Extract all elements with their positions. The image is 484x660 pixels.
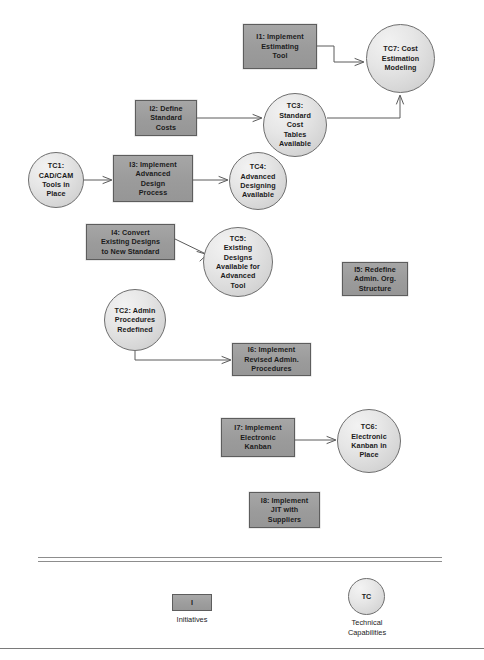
node-i2[interactable]: I2: Define Standard Costs bbox=[135, 100, 197, 136]
node-i4-label: I4: Convert Existing Designs to New Stan… bbox=[99, 228, 162, 256]
node-i2-label: I2: Define Standard Costs bbox=[147, 104, 184, 132]
legend-initiative-symbol: I bbox=[191, 598, 193, 607]
node-tc5-label: TC5: Existing Designs Available for Adva… bbox=[214, 234, 262, 290]
connector-tc2-i6 bbox=[135, 351, 230, 360]
node-i8[interactable]: I8: Implement JIT with Suppliers bbox=[249, 492, 320, 528]
node-i5-label: I5: Redefine Admin. Org. Structure bbox=[352, 265, 398, 293]
node-i5[interactable]: I5: Redefine Admin. Org. Structure bbox=[342, 262, 408, 296]
node-tc7[interactable]: TC7: Cost Estimation Modeling bbox=[366, 24, 435, 93]
connector-i4-tc5 bbox=[175, 239, 206, 254]
node-tc5[interactable]: TC5: Existing Designs Available for Adva… bbox=[203, 227, 273, 297]
node-i8-label: I8: Implement JIT with Suppliers bbox=[259, 496, 310, 524]
node-i3[interactable]: I3: Implement Advanced Design Process bbox=[113, 155, 193, 202]
connector-tc3-tc7 bbox=[327, 96, 400, 118]
node-tc6-label: TC6: Electronic Kanban in Place bbox=[349, 422, 388, 460]
diagram-canvas: I1: Implement Estimating Tool TC7: Cost … bbox=[0, 0, 484, 660]
node-i7[interactable]: I7: Implement Electronic Kanban bbox=[221, 418, 295, 457]
node-tc3[interactable]: TC3: Standard Cost Tables Available bbox=[263, 93, 327, 157]
node-i4[interactable]: I4: Convert Existing Designs to New Stan… bbox=[86, 224, 175, 260]
node-i1[interactable]: I1: Implement Estimating Tool bbox=[243, 24, 317, 69]
legend-divider-bottom bbox=[0, 648, 484, 649]
legend-capability-caption: Technical Capabilities bbox=[326, 618, 408, 637]
node-i6-label: I6: Implement Revised Admin. Procedures bbox=[242, 345, 301, 373]
node-tc6[interactable]: TC6: Electronic Kanban in Place bbox=[337, 409, 401, 473]
node-tc3-label: TC3: Standard Cost Tables Available bbox=[277, 101, 313, 148]
node-tc2[interactable]: TC2: Admin Procedures Redefined bbox=[104, 289, 166, 351]
node-i7-label: I7: Implement Electronic Kanban bbox=[232, 423, 283, 451]
legend-capability-swatch: TC bbox=[348, 578, 385, 615]
node-tc7-label: TC7: Cost Estimation Modeling bbox=[380, 44, 421, 72]
node-tc1-label: TC1: CAD/CAM Tools in Place bbox=[37, 161, 75, 199]
legend-divider-top bbox=[38, 557, 442, 562]
legend-capability-symbol: TC bbox=[362, 592, 372, 601]
node-tc2-label: TC2: Admin Procedures Redefined bbox=[113, 306, 158, 334]
node-i3-label: I3: Implement Advanced Design Process bbox=[127, 160, 178, 198]
node-tc4-label: TC4: Advanced Designing Available bbox=[238, 162, 277, 200]
node-tc1[interactable]: TC1: CAD/CAM Tools in Place bbox=[28, 152, 84, 208]
node-tc4[interactable]: TC4: Advanced Designing Available bbox=[229, 152, 287, 210]
connector-i1-tc7 bbox=[317, 46, 363, 62]
legend-initiative-caption: Initiatives bbox=[152, 615, 232, 625]
node-i6[interactable]: I6: Implement Revised Admin. Procedures bbox=[232, 343, 311, 376]
node-i1-label: I1: Implement Estimating Tool bbox=[254, 32, 305, 60]
legend-initiative-swatch: I bbox=[172, 594, 212, 611]
